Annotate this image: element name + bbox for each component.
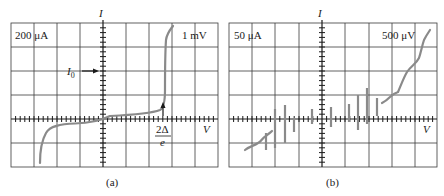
panel-b-x-scale-label: 500 μV xyxy=(382,29,415,41)
i0-label: I0 xyxy=(66,65,75,80)
panel-a-trace xyxy=(40,26,173,163)
panel-a-y-scale-label: 200 μA xyxy=(15,29,48,41)
panel-b-y-axis-label: I xyxy=(317,7,323,19)
figure-canvas: 200 μA 1 mV I V I0 2Δ e (a) xyxy=(0,0,444,196)
panel-a-x-axis-label: V xyxy=(203,123,211,135)
gap-denominator-label: e xyxy=(160,136,165,148)
panel-b-y-scale-label: 50 μA xyxy=(234,29,262,41)
panel-b-x-axis-label: V xyxy=(423,123,431,135)
panel-b-caption: (b) xyxy=(326,176,339,189)
panel-b-trace-negative xyxy=(245,131,272,150)
panel-b: 50 μA 500 μV I V (b) xyxy=(229,7,437,189)
i0-arrow-icon xyxy=(82,69,99,74)
gap-numerator-label: 2Δ xyxy=(156,123,169,135)
panel-b-axes xyxy=(229,20,437,167)
panel-a-x-scale-label: 1 mV xyxy=(182,29,207,41)
panel-a-caption: (a) xyxy=(106,176,119,189)
panel-b-grid xyxy=(229,23,437,167)
panel-a: 200 μA 1 mV I V I0 2Δ e (a) xyxy=(11,7,218,189)
panel-a-y-axis-label: I xyxy=(98,7,104,19)
